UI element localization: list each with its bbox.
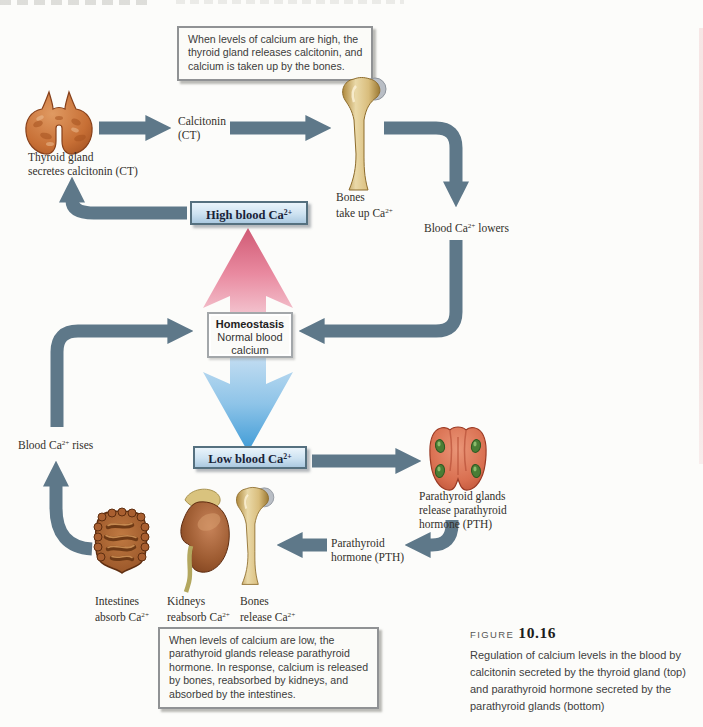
figure-page: When levels of calcium are high, the thy…	[0, 0, 703, 727]
kidneys-label: Kidneys reabsorb Ca2+	[167, 594, 230, 624]
low-blood-calcium-label: Low blood Ca2+	[208, 448, 291, 468]
thyroid-gland-label: Thyroid gland secretes calcitonin (CT)	[28, 150, 138, 178]
figure-number: 10.16	[518, 624, 556, 641]
arrow-organs-to-blood-rises	[56, 484, 92, 549]
homeostasis-down-arrow	[203, 345, 293, 452]
callout-line: by bones, reabsorbed by kidneys, and	[169, 674, 368, 687]
callout-line: When levels of calcium are high, the	[188, 33, 362, 46]
caption-line: calcitonin secreted by the thyroid gland…	[470, 664, 702, 681]
arrow-blood-lowers-to-homeostasis	[322, 240, 456, 331]
figure-label: FIGURE	[470, 629, 514, 640]
high-blood-calcium-label: High blood Ca2+	[206, 203, 292, 225]
bones-release-label: Bones release Ca2+	[240, 594, 295, 624]
bone-bottom-illustration	[229, 482, 279, 592]
arrow-blood-rises-to-homeostasis	[57, 331, 170, 427]
callout-line: calcium is taken up by the bones.	[188, 60, 362, 73]
homeostasis-title: Homeostasis	[209, 318, 291, 331]
callout-high-calcium: When levels of calcium are high, the thy…	[177, 26, 373, 81]
callout-line: thyroid gland releases calcitonin, and	[188, 46, 362, 59]
intestines-label: Intestines absorb Ca2+	[95, 594, 149, 624]
callout-line: When levels of calcium are low, the	[169, 634, 368, 647]
bones-take-up-label: Bones take up Ca2+	[336, 190, 393, 220]
blood-calcium-rises-label: Blood Ca2+ rises	[18, 436, 93, 452]
caption-line: and parathyroid hormone secreted by the	[470, 681, 702, 698]
homeostasis-box: Homeostasis Normal blood calcium	[207, 312, 293, 358]
pth-label: Parathyroid hormone (PTH)	[331, 536, 404, 564]
arrow-high-blood-to-thyroid	[72, 200, 187, 213]
intestines-illustration	[90, 503, 152, 575]
callout-line: parathyroid glands release parathyroid	[169, 647, 368, 660]
low-blood-calcium-box: Low blood Ca2+	[193, 446, 307, 469]
parathyroid-glands-label: Parathyroid glands release parathyroid h…	[419, 489, 507, 531]
bone-top-illustration	[334, 76, 392, 194]
high-blood-calcium-box: High blood Ca2+	[190, 201, 308, 225]
callout-line: hormone. In response, calcium is release…	[169, 661, 368, 674]
kidney-illustration	[161, 484, 235, 594]
caption-line: parathyroid glands (bottom)	[470, 698, 702, 715]
callout-line: absorbed by the intestines.	[169, 688, 368, 701]
homeostasis-body: Normal blood calcium	[209, 331, 291, 356]
callout-low-calcium: When levels of calcium are low, the para…	[158, 627, 379, 709]
blood-calcium-lowers-label: Blood Ca2+ lowers	[424, 219, 509, 235]
arrow-bones-to-blood-lowers	[384, 128, 456, 184]
parathyroid-glands-illustration	[426, 423, 490, 495]
calcitonin-label: Calcitonin (CT)	[178, 114, 226, 142]
caption-line: Regulation of calcium levels in the bloo…	[470, 647, 702, 664]
figure-caption: FIGURE10.16 Regulation of calcium levels…	[470, 624, 702, 715]
